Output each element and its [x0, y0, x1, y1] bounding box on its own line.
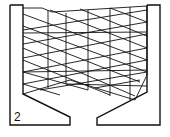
mesh-diagonal-strand: [95, 80, 140, 88]
mesh-diagonal-strand: [23, 10, 147, 30]
mesh-diagram: 2: [0, 0, 170, 137]
mesh-horizontal-strand: [23, 32, 147, 33]
mesh-diagonal-strand: [23, 48, 147, 72]
mesh-diagonal-strand: [23, 14, 147, 60]
mesh-net: [23, 6, 147, 100]
mesh-diagonal-strand: [23, 36, 140, 82]
mesh-diagonal-strand: [23, 34, 147, 58]
figure-number-label: 2: [14, 110, 21, 124]
